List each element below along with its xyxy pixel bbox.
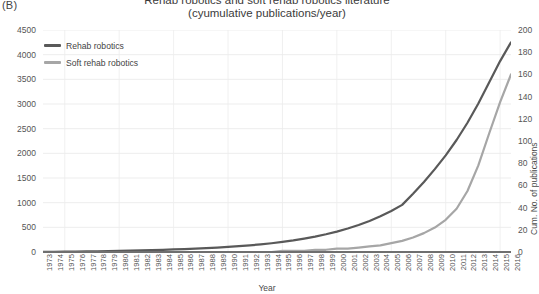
axis-tick-label: 2005	[394, 254, 402, 271]
axis-tick-label: 500	[0, 223, 40, 232]
axis-tick-label: 2013	[481, 254, 489, 271]
axis-tick-label: 1986	[187, 254, 195, 271]
axis-tick-label: 1500	[0, 174, 40, 183]
axis-tick-label: 1979	[111, 254, 119, 271]
axis-tick-label: 200	[514, 26, 538, 35]
axis-tick-label: 2002	[362, 254, 370, 271]
axis-tick-label: 2011	[460, 254, 468, 270]
axis-tick-label: 1994	[275, 254, 283, 271]
legend-label: Rehab robotics	[66, 41, 124, 51]
axis-tick-label: 2004	[383, 254, 391, 271]
x-axis-line	[43, 251, 511, 253]
axis-tick-label: 1973	[46, 254, 54, 271]
chart-legend: Rehab robotics Soft rehab robotics	[44, 39, 138, 73]
axis-tick-label: 1999	[329, 254, 337, 271]
axis-tick-label: 2000	[0, 149, 40, 158]
axis-tick-label: 1984	[166, 254, 174, 271]
axis-tick-label: 1974	[57, 254, 65, 271]
axis-tick-label: 2014	[492, 254, 500, 271]
axis-tick-label: 1975	[68, 254, 76, 271]
legend-item-rehab-robotics: Rehab robotics	[44, 39, 138, 52]
legend-swatch-icon	[44, 61, 61, 64]
axis-tick-label: 1985	[177, 254, 185, 271]
chart-title-line2: (cyumulative publications/year)	[0, 7, 534, 20]
axis-tick-label: 4000	[0, 50, 40, 59]
axis-tick-label: 1976	[79, 254, 87, 271]
axis-tick-label: 160	[514, 70, 538, 79]
axis-tick-label: 1978	[100, 254, 108, 271]
legend-label: Soft rehab robotics	[66, 58, 138, 68]
axis-tick-label: 1997	[307, 254, 315, 271]
axis-tick-label: 1977	[90, 254, 98, 271]
axis-tick-label: 120	[514, 114, 538, 123]
axis-tick-label: 2001	[351, 254, 359, 271]
axis-tick-label: 1982	[144, 254, 152, 271]
axis-tick-label: 2008	[427, 254, 435, 271]
axis-tick-label: 1980	[122, 254, 130, 271]
y-axis-right-title: Cum. No. of publications	[529, 142, 539, 235]
legend-swatch-icon	[44, 44, 61, 47]
axis-tick-label: 1992	[253, 254, 261, 271]
axis-tick-label: 1995	[285, 254, 293, 271]
chart-title: Rehab robotics and soft rehab robotics l…	[0, 0, 534, 20]
axis-tick-label: 1981	[133, 254, 141, 271]
axis-tick-label: 2009	[438, 254, 446, 271]
axis-tick-label: 0	[0, 248, 40, 257]
chart-title-line1: Rehab robotics and soft rehab robotics l…	[0, 0, 534, 7]
axis-tick-label: 2007	[416, 254, 424, 271]
axis-tick-label: 4500	[0, 26, 40, 35]
axis-tick-label: 1983	[155, 254, 163, 271]
axis-tick-label: 1991	[242, 254, 250, 271]
axis-tick-label: 2000	[340, 254, 348, 271]
axis-tick-label: 1996	[296, 254, 304, 271]
axis-tick-label: 1990	[231, 254, 239, 271]
axis-tick-label: 2006	[405, 254, 413, 271]
legend-item-soft-rehab-robotics: Soft rehab robotics	[44, 56, 138, 69]
axis-tick-label: 2500	[0, 124, 40, 133]
axis-tick-label: 3000	[0, 100, 40, 109]
axis-tick-label: 2015	[503, 254, 511, 271]
y-axis-left-ticks: 050010001500200025003000350040004500	[0, 30, 40, 252]
axis-tick-label: 1989	[220, 254, 228, 271]
axis-tick-label: 1000	[0, 198, 40, 207]
axis-tick-label: 3500	[0, 75, 40, 84]
x-axis-title: Year	[0, 283, 534, 293]
axis-tick-label: 2012	[470, 254, 478, 271]
axis-tick-label: 1998	[318, 254, 326, 271]
axis-tick-label: 1987	[198, 254, 206, 271]
axis-tick-label: 140	[514, 92, 538, 101]
axis-tick-label: 2003	[373, 254, 381, 271]
axis-tick-label: 180	[514, 48, 538, 57]
axis-tick-label: 2016	[514, 254, 522, 271]
axis-tick-label: 2010	[449, 254, 457, 271]
axis-tick-label: 1988	[209, 254, 217, 271]
axis-tick-label: 1993	[264, 254, 272, 271]
